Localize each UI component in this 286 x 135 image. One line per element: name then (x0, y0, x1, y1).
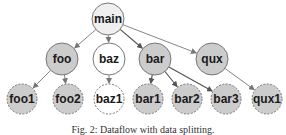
node-bar3: bar3 (211, 84, 241, 114)
nodes-layer: mainfoobazbarquxfoo1foo2baz1bar1bar2bar3… (7, 3, 282, 114)
edge-bar-to-bar1 (151, 75, 152, 83)
node-label: qux1 (253, 92, 281, 106)
figure-caption: Fig. 2: Dataflow with data splitting. (0, 124, 286, 135)
node-bar2: bar2 (172, 84, 202, 114)
edge-main-to-bar (120, 29, 142, 48)
node-foo2: foo2 (53, 84, 83, 114)
edge-foo-to-foo1 (33, 70, 50, 87)
edge-main-to-foo (75, 30, 96, 48)
node-qux: qux (196, 43, 228, 75)
node-baz: baz (93, 43, 125, 75)
node-label: foo (53, 52, 72, 66)
node-qux1: qux1 (252, 84, 282, 114)
node-label: bar1 (135, 92, 161, 106)
edge-bar-to-bar2 (165, 72, 177, 87)
dataflow-diagram: mainfoobazbarquxfoo1foo2baz1bar1bar2bar3… (0, 0, 286, 122)
node-label: bar2 (174, 92, 200, 106)
node-label: main (94, 12, 122, 26)
node-foo1: foo1 (7, 84, 37, 114)
node-label: qux (201, 52, 223, 66)
node-label: baz (99, 52, 119, 66)
node-foo: foo (46, 43, 78, 75)
node-bar: bar (139, 43, 171, 75)
node-label: foo1 (9, 92, 35, 106)
node-label: bar3 (213, 92, 239, 106)
node-bar1: bar1 (133, 84, 163, 114)
node-baz1: baz1 (94, 84, 124, 114)
node-label: baz1 (96, 92, 123, 106)
node-label: bar (146, 52, 165, 66)
edge-foo-to-foo2 (64, 75, 65, 83)
node-main: main (92, 3, 124, 35)
node-label: foo2 (55, 92, 81, 106)
